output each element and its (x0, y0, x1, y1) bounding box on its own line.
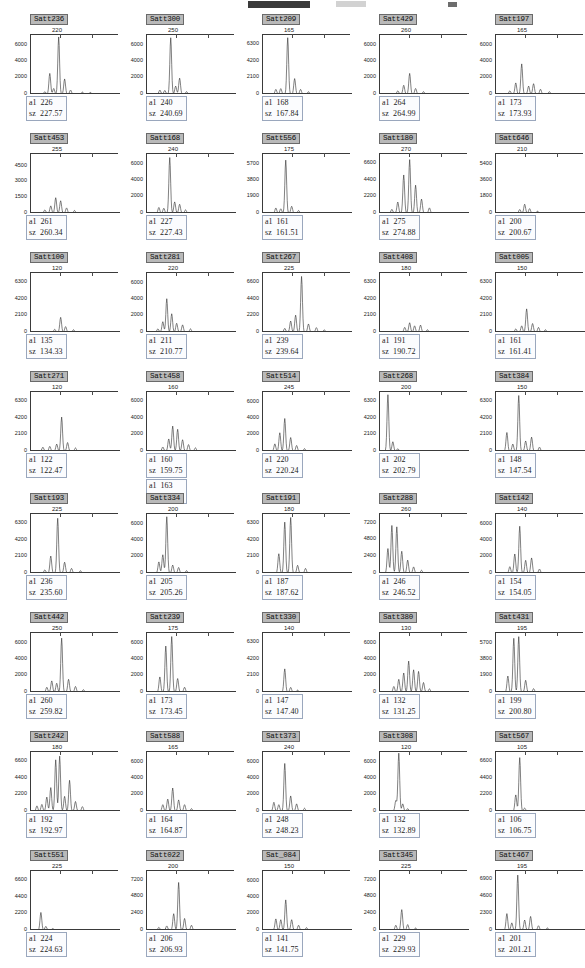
trace-plot-box[interactable] (495, 751, 583, 811)
allele-call-box[interactable]: a1 220sz 220.24 (262, 453, 303, 478)
trace-plot-box[interactable] (262, 272, 350, 332)
marker-label[interactable]: Satt193 (30, 493, 68, 504)
allele-call-box[interactable]: a1 161sz 161.41 (495, 334, 536, 359)
marker-label[interactable]: Satt514 (262, 371, 300, 382)
allele-call-box[interactable]: a1 227sz 227.43 (146, 215, 187, 240)
allele-call-box[interactable]: a1 160sz 159.75 (146, 453, 187, 478)
trace-plot-box[interactable] (146, 513, 234, 573)
allele-call-box[interactable]: a1 192sz 192.97 (26, 813, 67, 838)
allele-call-box[interactable]: a1 132sz 131.25 (379, 694, 420, 719)
marker-label[interactable]: Sat_084 (262, 850, 300, 861)
allele-call-box[interactable]: a1 161sz 161.51 (262, 215, 303, 240)
trace-plot-box[interactable] (495, 870, 583, 930)
allele-call-box[interactable]: a1 246sz 246.52 (379, 575, 420, 600)
trace-plot-box[interactable] (379, 870, 467, 930)
trace-plot-box[interactable] (30, 632, 118, 692)
trace-plot-box[interactable] (262, 870, 350, 930)
allele-call-box[interactable]: a1 229sz 229.93 (379, 932, 420, 957)
marker-label[interactable]: Satt267 (262, 252, 300, 263)
allele-call-box[interactable]: a1 226sz 227.57 (26, 96, 67, 121)
allele-call-box[interactable]: a1 132sz 132.89 (379, 813, 420, 838)
marker-label[interactable]: Satt384 (495, 371, 533, 382)
allele-call-box[interactable]: a1 201sz 201.21 (495, 932, 536, 957)
trace-plot-box[interactable] (146, 632, 234, 692)
allele-call-box[interactable]: a1 260sz 259.82 (26, 694, 67, 719)
allele-call-box[interactable]: a1 173sz 173.93 (495, 96, 536, 121)
allele-call-box[interactable]: a1 168sz 167.84 (262, 96, 303, 121)
marker-label[interactable]: Satt209 (262, 14, 300, 25)
marker-label[interactable]: Satt588 (146, 731, 184, 742)
marker-label[interactable]: Satt442 (30, 612, 68, 623)
marker-label[interactable]: Satt373 (262, 731, 300, 742)
trace-plot-box[interactable] (262, 632, 350, 692)
allele-call-box[interactable]: a1 224sz 224.63 (26, 932, 67, 957)
marker-label[interactable]: Satt100 (30, 252, 68, 263)
marker-label[interactable]: Satt168 (146, 133, 184, 144)
allele-call-box[interactable]: a1 261sz 260.34 (26, 215, 67, 240)
allele-call-box[interactable]: a1 240sz 240.69 (146, 96, 187, 121)
marker-label[interactable]: Satt239 (146, 612, 184, 623)
allele-call-box[interactable]: a1 135sz 134.33 (26, 334, 67, 359)
marker-label[interactable]: Satt334 (146, 493, 184, 504)
marker-label[interactable]: Satt467 (495, 850, 533, 861)
allele-call-box[interactable]: a1 248sz 248.23 (262, 813, 303, 838)
allele-call-box[interactable]: a1 200sz 200.67 (495, 215, 536, 240)
allele-call-box[interactable]: a1 122sz 122.47 (26, 453, 67, 478)
trace-plot-box[interactable] (146, 870, 234, 930)
trace-plot-box[interactable] (30, 870, 118, 930)
allele-call-box[interactable]: a1 205sz 205.26 (146, 575, 187, 600)
marker-label[interactable]: Satt236 (30, 14, 68, 25)
marker-label[interactable]: Satt330 (262, 612, 300, 623)
allele-call-box[interactable]: a1 202sz 202.79 (379, 453, 420, 478)
trace-plot-box[interactable] (262, 153, 350, 213)
marker-label[interactable]: Satt345 (379, 850, 417, 861)
marker-label[interactable]: Satt646 (495, 133, 533, 144)
trace-plot-box[interactable] (30, 153, 118, 213)
allele-call-box[interactable]: a1 106sz 106.75 (495, 813, 536, 838)
marker-label[interactable]: Satt567 (495, 731, 533, 742)
trace-plot-box[interactable] (495, 391, 583, 451)
trace-plot-box[interactable] (379, 751, 467, 811)
allele-call-box[interactable]: a1 199sz 200.80 (495, 694, 536, 719)
trace-plot-box[interactable] (495, 153, 583, 213)
trace-plot-box[interactable] (379, 513, 467, 573)
allele-call-box[interactable]: a1 148sz 147.54 (495, 453, 536, 478)
marker-label[interactable]: Satt268 (379, 371, 417, 382)
trace-plot-box[interactable] (495, 34, 583, 94)
marker-label[interactable]: Satt408 (379, 252, 417, 263)
allele-call-box[interactable]: a1 141sz 141.75 (262, 932, 303, 957)
trace-plot-box[interactable] (146, 751, 234, 811)
marker-label[interactable]: Satt022 (146, 850, 184, 861)
trace-plot-box[interactable] (30, 34, 118, 94)
marker-label[interactable]: Satt431 (495, 612, 533, 623)
trace-plot-box[interactable] (379, 34, 467, 94)
trace-plot-box[interactable] (495, 272, 583, 332)
allele-call-box[interactable]: a1 154sz 154.05 (495, 575, 536, 600)
marker-label[interactable]: Satt191 (262, 493, 300, 504)
allele-call-box[interactable]: a1 275sz 274.88 (379, 215, 420, 240)
marker-label[interactable]: Satt281 (146, 252, 184, 263)
trace-plot-box[interactable] (379, 153, 467, 213)
trace-plot-box[interactable] (30, 513, 118, 573)
trace-plot-box[interactable] (30, 391, 118, 451)
allele-call-box[interactable]: a1 239sz 239.64 (262, 334, 303, 359)
trace-plot-box[interactable] (262, 391, 350, 451)
trace-plot-box[interactable] (379, 272, 467, 332)
marker-label[interactable]: Satt197 (495, 14, 533, 25)
marker-label[interactable]: Satt271 (30, 371, 68, 382)
allele-call-box[interactable]: a1 264sz 264.99 (379, 96, 420, 121)
marker-label[interactable]: Satt380 (379, 612, 417, 623)
trace-plot-box[interactable] (262, 513, 350, 573)
allele-call-box[interactable]: a1 164sz 164.87 (146, 813, 187, 838)
marker-label[interactable]: Satt453 (30, 133, 68, 144)
marker-label[interactable]: Satt005 (495, 252, 533, 263)
allele-call-box[interactable]: a1 206sz 206.93 (146, 932, 187, 957)
trace-plot-box[interactable] (495, 513, 583, 573)
marker-label[interactable]: Satt308 (379, 731, 417, 742)
trace-plot-box[interactable] (495, 632, 583, 692)
allele-call-box[interactable]: a1 147sz 147.40 (262, 694, 303, 719)
marker-label[interactable]: Satt458 (146, 371, 184, 382)
marker-label[interactable]: Satt429 (379, 14, 417, 25)
allele-call-box[interactable]: a1 173sz 173.45 (146, 694, 187, 719)
marker-label[interactable]: Satt288 (379, 493, 417, 504)
